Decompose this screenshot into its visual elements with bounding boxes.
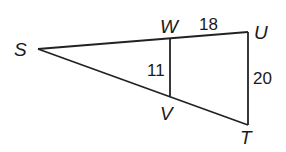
vertex-label-U: U [254, 23, 268, 42]
length-label-UT: 20 [253, 70, 272, 87]
vertex-label-T: T [240, 128, 252, 147]
segment-ST [38, 49, 248, 125]
vertex-label-W: W [160, 17, 178, 36]
vertex-label-V: V [160, 104, 173, 123]
length-label-WV: 11 [147, 62, 165, 79]
vertex-label-S: S [14, 40, 27, 59]
length-label-WU: 18 [199, 16, 218, 33]
segment-SU [38, 32, 248, 49]
similar-triangles-diagram: S W 18 U 11 20 V T [0, 0, 286, 152]
